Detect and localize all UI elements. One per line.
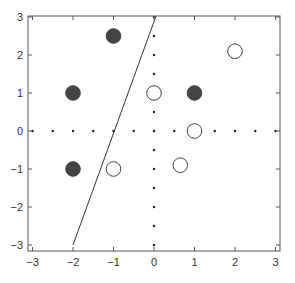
separator-line (73, 16, 156, 245)
filled-point (66, 162, 81, 177)
x-tick-label: 2 (232, 256, 238, 268)
y-tick-label: −2 (10, 201, 23, 213)
open-point (187, 124, 202, 139)
axis-dot (153, 187, 155, 189)
open-point (173, 158, 188, 173)
axis-dot (153, 168, 155, 170)
x-tick-label: 3 (272, 256, 278, 268)
x-tick-label: 1 (191, 256, 197, 268)
axis-dot (153, 73, 155, 75)
axis-dot (153, 54, 155, 56)
axis-dot (153, 244, 155, 246)
axis-dot (52, 130, 54, 132)
axis-dot (92, 130, 94, 132)
filled-point (187, 86, 202, 101)
y-tick-label: 0 (17, 125, 23, 137)
y-tick-label: 3 (17, 11, 23, 23)
open-point (147, 86, 162, 101)
axis-dot (153, 206, 155, 208)
axis-dot (153, 111, 155, 113)
y-tick-label: 2 (17, 49, 23, 61)
axis-dot (72, 130, 74, 132)
x-tick-label: −1 (107, 256, 120, 268)
axis-dot (133, 130, 135, 132)
axis-dot (254, 130, 256, 132)
y-tick-label: −1 (10, 163, 23, 175)
open-point (106, 162, 121, 177)
axis-dot (153, 35, 155, 37)
scatter-chart: −3−2−10123−3−2−10123 (0, 0, 295, 283)
axis-dot (173, 130, 175, 132)
filled-point (106, 29, 121, 44)
x-tick-label: −3 (26, 256, 39, 268)
x-tick-label: −2 (67, 256, 80, 268)
axis-dot (234, 130, 236, 132)
axis-dot (153, 130, 155, 132)
x-tick-label: 0 (151, 256, 157, 268)
axis-dot (214, 130, 216, 132)
filled-point (66, 86, 81, 101)
y-tick-label: 1 (17, 87, 23, 99)
open-point (228, 44, 243, 59)
axis-dot (153, 225, 155, 227)
y-tick-label: −3 (10, 239, 23, 251)
data-points (66, 29, 243, 177)
axis-dot (153, 149, 155, 151)
